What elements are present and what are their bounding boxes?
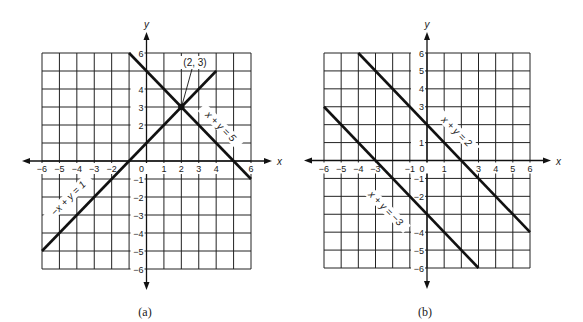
x-tick-label: −6 — [37, 164, 47, 174]
y-axis-label: y — [424, 19, 431, 30]
arrow-up-icon — [424, 32, 430, 40]
x-tick-label: 3 — [476, 164, 481, 174]
y-tick-label: −3 — [133, 211, 143, 221]
caption-a: (a) — [138, 305, 151, 319]
y-tick-label: −5 — [133, 247, 143, 257]
y-tick-label: 3 — [419, 102, 424, 112]
y-tick-label: −4 — [414, 228, 424, 238]
x-tick-label: 3 — [196, 164, 201, 174]
y-tick-label: 2 — [138, 121, 143, 131]
x-tick-label: 6 — [527, 164, 532, 174]
y-tick-label: 6 — [138, 49, 143, 59]
x-axis-label: x — [276, 156, 283, 167]
x-tick-label: 4 — [214, 164, 219, 174]
y-tick-label: 4 — [419, 84, 424, 94]
caption-b: (b) — [418, 305, 432, 319]
line-equation-label: −x + y = 1 — [43, 173, 93, 223]
x-tick-label: −2 — [107, 164, 117, 174]
arrow-up-icon — [144, 32, 150, 40]
graph-panel-a: xy−6−5−4−3−20123466432−1−2−3−4−5−6x + y … — [22, 19, 283, 290]
x-tick-label: −4 — [72, 164, 82, 174]
x-tick-label: −4 — [353, 164, 363, 174]
x-tick-label: −5 — [336, 164, 346, 174]
x-tick-label: 1 — [161, 164, 166, 174]
x-axis-label: x — [555, 156, 562, 167]
y-axis-label: y — [143, 19, 150, 30]
line-equation-text: −x + y = 1 — [49, 179, 88, 218]
point-label: (2, 3) — [183, 57, 206, 68]
y-tick-label: −6 — [133, 265, 143, 275]
x-tick-label: 5 — [510, 164, 515, 174]
arrow-left-icon — [22, 158, 30, 164]
line-equation-label: x + y = 2 — [434, 108, 480, 154]
y-tick-label: −1 — [414, 174, 424, 184]
arrow-right-icon — [543, 158, 551, 164]
arrow-down-icon — [144, 282, 150, 290]
y-tick-label: −4 — [133, 229, 143, 239]
x-tick-label: −5 — [54, 164, 64, 174]
x-tick-label: 1 — [442, 164, 447, 174]
y-tick-label: 4 — [138, 85, 143, 95]
line-equation-text: x + y = −3 — [366, 188, 406, 228]
y-tick-label: −5 — [414, 246, 424, 256]
figure: xy−6−5−4−3−20123466432−1−2−3−4−5−6x + y … — [0, 0, 583, 322]
y-tick-label: −6 — [414, 264, 424, 274]
arrow-left-icon — [304, 158, 312, 164]
plot-line — [129, 53, 251, 179]
figure-canvas: xy−6−5−4−3−20123466432−1−2−3−4−5−6x + y … — [0, 0, 583, 322]
arrow-right-icon — [264, 158, 272, 164]
x-tick-label: −1 — [405, 164, 415, 174]
x-tick-label: 2 — [179, 164, 184, 174]
x-tick-label: 6 — [248, 164, 253, 174]
y-tick-label: −1 — [133, 175, 143, 185]
x-tick-label: −3 — [89, 164, 99, 174]
x-tick-labels: −6−5−4−3−2012346 — [34, 163, 259, 174]
x-tick-label: 0 — [139, 164, 144, 174]
y-tick-label: 3 — [138, 103, 143, 113]
x-tick-label: −6 — [319, 164, 329, 174]
y-tick-label: 5 — [419, 66, 424, 76]
intersection-point — [178, 104, 184, 110]
series-line: x + y = 5 — [129, 53, 251, 179]
x-tick-labels: −6−5−4−3−1013456 — [316, 163, 538, 174]
graph-panel-b: xy−6−5−4−3−101345665431−1−2−4−5−6x + y =… — [304, 19, 562, 289]
line-equation-label: x + y = 5 — [198, 103, 244, 149]
y-tick-label: 6 — [419, 49, 424, 59]
y-tick-label: −2 — [133, 193, 143, 203]
y-tick-label: 1 — [419, 138, 424, 148]
arrow-down-icon — [424, 281, 430, 289]
x-tick-label: 0 — [419, 164, 424, 174]
x-tick-label: 4 — [493, 164, 498, 174]
